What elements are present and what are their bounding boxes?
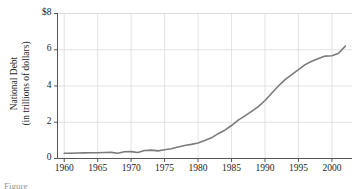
- x-axis-tick-label: 1985: [218, 163, 246, 173]
- figure-container: National Debt (in trillions of dollars) …: [0, 0, 359, 189]
- figure-caption: Figure: [4, 181, 28, 189]
- line-chart-plot: [0, 0, 359, 189]
- x-axis-tick-label: 1960: [50, 163, 78, 173]
- gridlines: [58, 14, 353, 159]
- y-axis-tick-label: 6: [47, 43, 52, 53]
- y-axis-tick-label: 4: [47, 80, 52, 90]
- data-line-national-debt: [64, 46, 345, 153]
- axis-ticks: [54, 14, 332, 163]
- y-axis-tick-label: 0: [47, 152, 52, 162]
- x-axis-tick-label: 2000: [318, 163, 346, 173]
- x-axis-tick-label: 1990: [251, 163, 279, 173]
- x-axis-tick-label: 1980: [184, 163, 212, 173]
- y-axis-tick-label: 2: [47, 116, 52, 126]
- x-axis-tick-label: 1995: [284, 163, 312, 173]
- x-axis-tick-label: 1970: [117, 163, 145, 173]
- x-axis-tick-label: 1975: [151, 163, 179, 173]
- x-axis-tick-label: 1965: [84, 163, 112, 173]
- y-axis-tick-label: $8: [42, 7, 52, 17]
